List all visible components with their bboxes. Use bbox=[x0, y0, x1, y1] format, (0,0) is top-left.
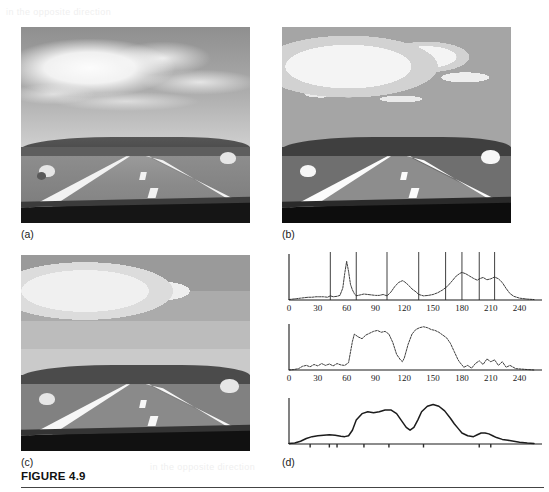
histogram-original: 0306090120150180210240 bbox=[282, 252, 544, 314]
x-tick-label: 240 bbox=[513, 373, 527, 383]
panel-a-image bbox=[21, 27, 250, 223]
panel-d-label: (d) bbox=[282, 456, 295, 468]
x-tick-labels: 0306090120150180210240 bbox=[287, 373, 527, 383]
histogram-smoothed: 0306090120150180210240 bbox=[282, 322, 544, 384]
sky-region-c bbox=[21, 255, 250, 375]
x-tick-label: 60 bbox=[342, 373, 352, 383]
histogram-curve bbox=[289, 327, 534, 370]
x-tick-label: 30 bbox=[313, 373, 323, 383]
sheep-left-b bbox=[300, 165, 316, 177]
ghost-text-top: in the opposite direction bbox=[6, 7, 111, 17]
figure-caption: FIGURE 4.9 bbox=[21, 470, 86, 482]
x-tick-label: 180 bbox=[455, 303, 469, 313]
figure-page: in the opposite direction in the opposit… bbox=[0, 0, 549, 492]
x-tick-label: 120 bbox=[398, 373, 412, 383]
x-tick-labels: 0306090120150180210240 bbox=[287, 303, 527, 313]
x-tick-label: 90 bbox=[371, 303, 381, 313]
x-tick-label: 180 bbox=[455, 373, 469, 383]
sheep-right-a bbox=[220, 152, 236, 164]
sheep-left-shadow-a bbox=[37, 172, 46, 180]
x-tick-label: 60 bbox=[342, 303, 352, 313]
sheep-right-c bbox=[220, 379, 238, 393]
caption-rule bbox=[21, 487, 544, 488]
x-tick-label: 120 bbox=[398, 303, 412, 313]
x-tick-label: 90 bbox=[371, 373, 381, 383]
x-tick-label: 30 bbox=[313, 303, 323, 313]
sky-region-a bbox=[21, 27, 250, 147]
panel-b-image bbox=[282, 27, 511, 223]
x-tick-label: 210 bbox=[484, 373, 498, 383]
sky-region-b bbox=[282, 27, 511, 147]
panel-c-image bbox=[21, 255, 250, 451]
hist1-svg: 0306090120150180210240 bbox=[282, 322, 544, 384]
x-tick-label: 0 bbox=[287, 373, 292, 383]
histogram-curve bbox=[289, 261, 534, 299]
sheep-left-c bbox=[39, 393, 55, 405]
hist2-svg bbox=[282, 396, 544, 452]
sheep-right-b bbox=[481, 150, 499, 164]
histogram-final-smooth bbox=[282, 396, 544, 452]
x-tick-label: 0 bbox=[287, 303, 292, 313]
panel-c-label: (c) bbox=[21, 456, 33, 468]
hist0-svg: 0306090120150180210240 bbox=[282, 252, 544, 314]
panel-a-label: (a) bbox=[21, 228, 34, 240]
ghost-text-bottom: in the opposite direction bbox=[150, 462, 255, 472]
histogram-curve bbox=[289, 404, 534, 443]
x-tick-label: 240 bbox=[513, 303, 527, 313]
x-tick-label: 210 bbox=[484, 303, 498, 313]
x-tick-label: 150 bbox=[426, 303, 440, 313]
panel-b-label: (b) bbox=[282, 228, 295, 240]
x-tick-label: 150 bbox=[426, 373, 440, 383]
